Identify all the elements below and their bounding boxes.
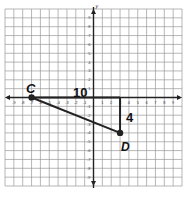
point-label-c: C <box>26 81 35 96</box>
x-tick-label: 7 <box>154 100 157 105</box>
x-tick-label: 1 <box>101 100 104 105</box>
point-d <box>117 130 123 136</box>
x-tick-label: -8 <box>21 100 25 105</box>
x-tick-label: 2 <box>110 100 113 105</box>
x-tick-label: -9 <box>12 100 16 105</box>
y-axis-arrow-up-icon <box>91 9 96 14</box>
x-tick-label: -3 <box>65 100 69 105</box>
coordinate-grid: -9-8-7-6-5-4-3-2-1123456789987654321-1-2… <box>0 0 186 199</box>
x-tick-label: 8 <box>163 100 166 105</box>
x-tick-label: 6 <box>145 100 148 105</box>
x-tick-label: -2 <box>74 100 78 105</box>
point-label-d: D <box>121 140 130 154</box>
horizontal-length-label: 10 <box>73 85 87 100</box>
y-axis-label: y <box>95 3 99 9</box>
x-tick-label: 9 <box>172 100 175 105</box>
x-tick-label: -4 <box>56 100 60 105</box>
x-tick-label: 4 <box>128 100 131 105</box>
x-axis-arrow-left-icon <box>5 95 10 100</box>
y-axis-arrow-down-icon <box>91 181 96 186</box>
x-tick-label: 5 <box>137 100 140 105</box>
vertical-length-label: 4 <box>126 110 133 125</box>
x-axis-arrow-right-icon <box>177 95 182 100</box>
